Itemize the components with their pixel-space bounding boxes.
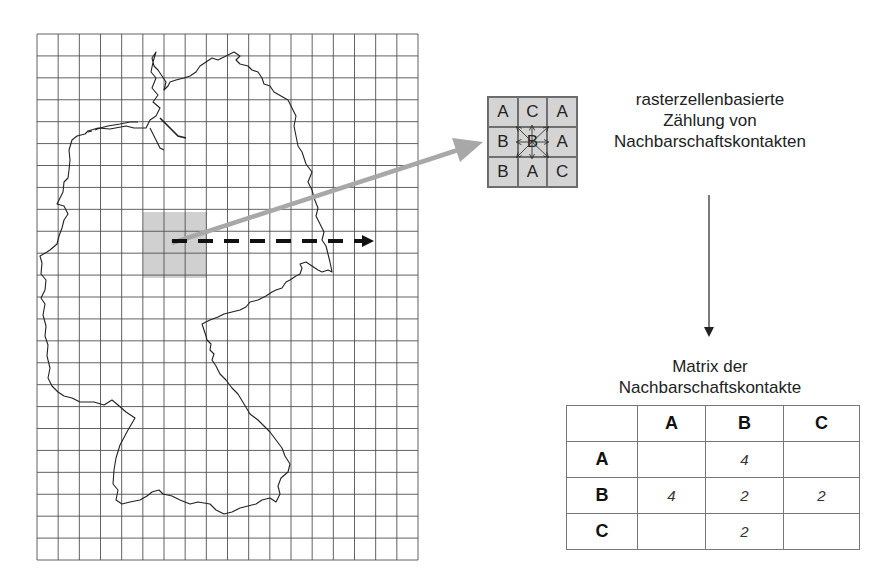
matrix-row: A 4 xyxy=(567,442,860,478)
matrix-corner-cell xyxy=(567,406,638,442)
matrix-column-header: B xyxy=(706,406,784,442)
caption-line: Nachbarschaftskontakte xyxy=(590,377,830,398)
contact-matrix: A B C A 4 B 4 2 2 C 2 xyxy=(566,405,860,550)
caption-line: rasterzellenbasierte xyxy=(592,89,828,110)
matrix-row: B 4 2 2 xyxy=(567,478,860,514)
matrix-row-header: A xyxy=(567,442,638,478)
matrix-cell xyxy=(784,442,860,478)
matrix-row-header: B xyxy=(567,478,638,514)
caption-line: Matrix der xyxy=(590,356,830,377)
matrix-cell xyxy=(784,514,860,550)
down-arrow xyxy=(704,195,714,337)
matrix-cell: 4 xyxy=(706,442,784,478)
counting-caption: rasterzellenbasierte Zählung von Nachbar… xyxy=(592,89,828,152)
matrix-row-header: C xyxy=(567,514,638,550)
matrix-cell xyxy=(638,514,706,550)
highlighted-cell-block xyxy=(143,212,207,278)
matrix-row: C 2 xyxy=(567,514,860,550)
caption-line: Zählung von xyxy=(592,110,828,131)
matrix-cell: 2 xyxy=(784,478,860,514)
matrix-header-row: A B C xyxy=(567,406,860,442)
matrix-column-header: A xyxy=(638,406,706,442)
caption-line: Nachbarschaftskontakten xyxy=(592,131,828,152)
raster-grid xyxy=(37,34,418,560)
zoom-arrow xyxy=(172,138,483,243)
matrix-column-header: C xyxy=(784,406,860,442)
matrix-cell xyxy=(638,442,706,478)
matrix-cell: 2 xyxy=(706,514,784,550)
matrix-cell: 4 xyxy=(638,478,706,514)
matrix-caption: Matrix der Nachbarschaftskontakte xyxy=(590,356,830,398)
matrix-cell: 2 xyxy=(706,478,784,514)
neighbor-arrows xyxy=(487,96,578,188)
